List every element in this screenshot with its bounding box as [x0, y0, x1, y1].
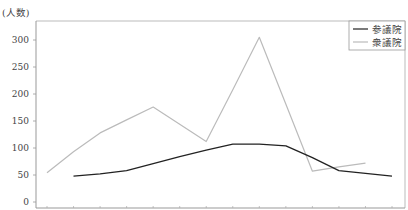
y-tick-label: 150 — [12, 116, 29, 126]
legend: 参議院 衆議院 — [349, 21, 405, 50]
y-tick-label: 100 — [12, 143, 29, 153]
series-line-shugiin — [47, 37, 366, 173]
legend-label-sangiin: 参議院 — [372, 24, 402, 35]
y-tick-label: 200 — [12, 89, 29, 99]
y-tick-label: 250 — [12, 62, 29, 72]
legend-label-shugiin: 衆議院 — [372, 37, 402, 48]
y-tick-label: 0 — [23, 197, 29, 207]
series-lines — [47, 37, 392, 176]
line-chart: (人数) 050100150200250300 参議院 衆議院 — [0, 0, 408, 210]
y-tick-label: 300 — [12, 35, 29, 45]
y-tick-label: 50 — [18, 170, 30, 180]
y-axis-title: (人数) — [2, 7, 29, 18]
y-axis-ticks: 050100150200250300 — [12, 35, 36, 207]
series-line-sangiin — [74, 144, 393, 176]
